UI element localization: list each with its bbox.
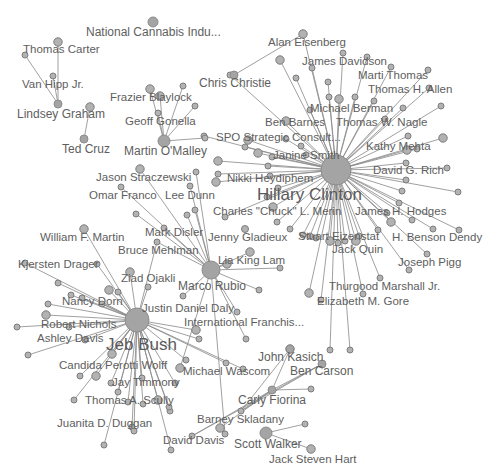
graph-node[interactable] <box>77 373 83 379</box>
graph-node[interactable] <box>45 301 51 307</box>
label-kathy-mehta: Kathy Mehta <box>366 140 431 152</box>
graph-node[interactable] <box>196 336 202 342</box>
graph-node[interactable] <box>307 445 315 453</box>
label-thomas-w-nagle: Thomas W. Nagle <box>336 116 427 128</box>
graph-node[interactable] <box>326 94 332 100</box>
graph-node[interactable] <box>439 134 447 142</box>
graph-node[interactable] <box>438 103 444 109</box>
graph-node[interactable] <box>325 79 331 85</box>
graph-node[interactable] <box>302 421 308 427</box>
network-graph-canvas: Hillary ClintonJeb BushMarco RubioMartin… <box>0 0 495 471</box>
graph-node[interactable] <box>180 83 186 89</box>
label-ziad-ojakli: Ziad Ojakli <box>121 272 175 284</box>
graph-node[interactable] <box>254 149 262 157</box>
label-international-franchis: International Franchis... <box>184 316 304 328</box>
label-joseph-pigg: Joseph Pigg <box>398 256 461 268</box>
graph-node[interactable] <box>71 397 77 403</box>
graph-node[interactable] <box>327 347 333 353</box>
label-william-f-martin: William F. Martin <box>40 231 124 243</box>
graph-node[interactable] <box>192 103 198 109</box>
graph-node[interactable] <box>256 287 262 293</box>
graph-node[interactable] <box>101 442 107 448</box>
label-justin-daniel-daly: Justin Daniel Daly <box>142 302 234 314</box>
label-martin-o-malley: Martin O'Malley <box>124 144 207 158</box>
graph-node[interactable] <box>14 324 20 330</box>
graph-node[interactable] <box>400 105 406 111</box>
graph-node[interactable] <box>409 217 415 223</box>
label-ted-cruz: Ted Cruz <box>62 142 110 156</box>
graph-node[interactable] <box>215 171 221 177</box>
label-ben-barnes: Ben Barnes <box>265 116 325 128</box>
label-layer: Hillary ClintonJeb BushMarco RubioMartin… <box>17 25 482 465</box>
label-jay-timmony: Jay Timmony <box>112 376 180 388</box>
label-kjersten-drager: Kjersten Drager <box>18 258 99 270</box>
graph-node[interactable] <box>202 135 208 141</box>
label-thomas-a-scully: Thomas A. Scully <box>85 394 174 406</box>
label-barney-skladany: Barney Skladany <box>197 413 284 425</box>
edge-rubio <box>211 268 280 270</box>
label-scott-walker: Scott Walker <box>234 437 302 451</box>
graph-node[interactable] <box>214 157 222 165</box>
graph-node[interactable] <box>403 177 409 183</box>
label-michael-berman: Michael Berman <box>310 102 393 114</box>
graph-node[interactable] <box>193 169 199 175</box>
label-national-cannabis-indu: National Cannabis Indu... <box>86 25 221 39</box>
graph-node[interactable] <box>455 189 461 195</box>
graph-node[interactable] <box>212 178 220 186</box>
graph-node[interactable] <box>287 226 293 232</box>
graph-node[interactable] <box>55 280 61 286</box>
graph-node[interactable] <box>265 163 271 169</box>
label-hillary-clinton: Hillary Clinton <box>257 185 362 204</box>
label-marti-thomas: Marti Thomas <box>358 69 428 81</box>
graph-node[interactable] <box>192 207 198 213</box>
label-jason-straczewski: Jason Straczewski <box>96 171 191 183</box>
graph-node[interactable] <box>399 188 405 194</box>
label-lee-dunn: Lee Dunn <box>165 189 215 201</box>
graph-node[interactable] <box>92 372 100 380</box>
graph-node[interactable] <box>347 347 353 353</box>
graph-node[interactable] <box>305 289 313 297</box>
edge-rubio <box>136 214 211 270</box>
label-frazier-blaylock: Frazier Blaylock <box>110 91 192 103</box>
label-nikki-heydiphem: Nikki Heydiphem <box>227 172 313 184</box>
graph-node[interactable] <box>133 211 139 217</box>
graph-node[interactable] <box>216 424 224 432</box>
graph-node[interactable] <box>145 284 151 290</box>
label-james-davidson: James Davidson <box>302 55 387 67</box>
graph-node[interactable] <box>25 352 31 358</box>
label-mark-disler: Mark Disler <box>145 226 203 238</box>
label-spo-strategic-consult: SPO Strategic Consult... <box>216 131 341 143</box>
network-graph: Hillary ClintonJeb BushMarco RubioMartin… <box>0 0 495 471</box>
graph-node[interactable] <box>405 133 411 139</box>
label-thurgood-marshall-jr: Thurgood Marshall Jr. <box>329 280 440 292</box>
graph-node[interactable] <box>444 165 450 171</box>
label-michael-wascom: Michael Wascom <box>183 365 270 377</box>
graph-node[interactable] <box>243 336 249 342</box>
graph-node[interactable] <box>183 357 189 363</box>
label-thomas-carter: Thomas Carter <box>23 43 100 55</box>
label-alan-eisenberg: Alan Eisenberg <box>268 36 346 48</box>
label-lia-king-lam: Lia King Lam <box>218 254 285 266</box>
graph-node[interactable] <box>242 144 248 150</box>
label-jack-steven-hart: Jack Steven Hart <box>269 453 357 465</box>
graph-node[interactable] <box>387 218 395 226</box>
edge-rubio <box>211 270 225 434</box>
graph-node[interactable] <box>168 447 174 453</box>
label-juanita-d-duggan: Juanita D. Duggan <box>57 417 152 429</box>
graph-node[interactable] <box>274 219 280 225</box>
graph-node[interactable] <box>180 293 186 299</box>
label-lindsey-graham: Lindsey Graham <box>17 107 105 121</box>
label-van-hipp-jr: Van Hipp Jr. <box>22 78 84 90</box>
graph-node[interactable] <box>184 212 190 218</box>
label-jenny-gladieux: Jenny Gladieux <box>208 231 288 243</box>
graph-node[interactable] <box>293 75 299 81</box>
graph-node[interactable] <box>105 286 113 294</box>
label-ashley-davis: Ashley Davis <box>37 332 104 344</box>
label-bruce-mehlman: Bruce Mehlman <box>118 244 199 256</box>
graph-node[interactable] <box>308 386 314 392</box>
graph-node[interactable] <box>276 56 284 64</box>
graph-node[interactable] <box>352 94 358 100</box>
label-john-kasich: John Kasich <box>258 350 323 364</box>
graph-node[interactable] <box>234 309 240 315</box>
label-charles-chuck-l-merin: Charles "Chuck" L. Merin <box>213 205 341 217</box>
